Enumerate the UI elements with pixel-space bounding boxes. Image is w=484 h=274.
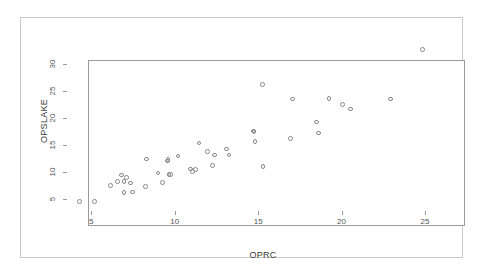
data-point (253, 139, 258, 144)
y-tick-label: 15 (48, 138, 58, 152)
data-point (210, 163, 215, 168)
y-tick-label: 20 (48, 111, 58, 125)
y-tick-label: 10 (48, 165, 58, 179)
x-tick-label: 10 (160, 217, 190, 227)
data-point (420, 47, 425, 52)
y-axis-label: OPSLAKE (39, 99, 49, 143)
x-axis-label: OPRC (21, 250, 484, 260)
y-tick-mark (63, 64, 67, 65)
x-tick-label: 25 (410, 217, 440, 227)
plot-panel (88, 60, 465, 226)
x-tick-label: 15 (243, 217, 273, 227)
data-point (166, 157, 171, 162)
data-point (316, 131, 321, 136)
y-tick-label: 30 (48, 57, 58, 71)
data-point (340, 102, 345, 107)
data-point (115, 179, 120, 184)
y-tick-mark (63, 118, 67, 119)
data-point (92, 199, 97, 204)
data-point (205, 149, 210, 154)
x-tick-mark (258, 211, 259, 215)
data-point (224, 147, 229, 152)
data-point (168, 172, 173, 177)
x-tick-label: 5 (76, 217, 106, 227)
data-point (288, 136, 293, 141)
y-tick-mark (63, 199, 67, 200)
x-tick-mark (342, 211, 343, 215)
data-point (143, 184, 148, 189)
y-tick-label: 25 (48, 84, 58, 98)
x-tick-label: 20 (327, 217, 357, 227)
data-point (252, 129, 257, 134)
x-tick-mark (175, 211, 176, 215)
x-tick-mark (91, 211, 92, 215)
data-point (290, 97, 295, 102)
data-point (260, 82, 265, 87)
data-point (314, 120, 319, 125)
y-tick-label: 5 (48, 192, 58, 206)
data-point (122, 190, 127, 195)
data-point (193, 167, 198, 172)
data-point (122, 179, 127, 184)
x-tick-mark (425, 211, 426, 215)
figure-frame: 510152025 51015202530 OPRC OPSLAKE (20, 17, 463, 258)
data-point (124, 175, 129, 180)
scatter-plot-screenshot: 510152025 51015202530 OPRC OPSLAKE (0, 0, 484, 274)
data-point (160, 180, 165, 185)
data-point (130, 190, 135, 195)
data-point (108, 183, 113, 188)
y-tick-mark (63, 91, 67, 92)
y-tick-mark (63, 145, 67, 146)
y-tick-mark (63, 172, 67, 173)
data-point (144, 157, 149, 162)
data-point (128, 181, 133, 186)
data-point (77, 199, 82, 204)
data-point (119, 173, 124, 178)
